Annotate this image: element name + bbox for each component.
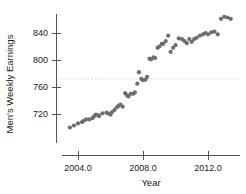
data-point — [133, 90, 137, 94]
x-tick-label-2008.0: 2008.0 — [129, 163, 157, 173]
data-point — [121, 104, 125, 108]
data-point — [212, 30, 216, 34]
data-point — [68, 125, 72, 129]
y-axis-title: Men's Weekly Earnings — [4, 34, 15, 133]
data-point — [137, 70, 141, 74]
y-tick-label-760: 760 — [33, 82, 48, 92]
y-tick-label-800: 800 — [33, 55, 48, 65]
x-tick-label-2012.0: 2012.0 — [194, 163, 222, 173]
data-point — [229, 17, 233, 21]
data-point — [72, 123, 76, 127]
data-point — [173, 43, 177, 47]
data-point — [97, 114, 101, 118]
data-point — [135, 82, 139, 86]
data-point — [164, 39, 168, 43]
scatter-chart: 720760800840 2004.02008.02012.0 Men's We… — [0, 0, 246, 194]
chart-canvas: 720760800840 2004.02008.02012.0 Men's We… — [0, 0, 246, 194]
data-point — [100, 111, 104, 115]
x-tick-marks: 2004.02008.02012.0 — [64, 151, 222, 173]
data-point — [76, 121, 80, 125]
data-point — [153, 56, 157, 60]
data-point — [169, 50, 173, 54]
data-point — [185, 41, 189, 45]
data-point — [145, 75, 149, 79]
y-tick-label-840: 840 — [33, 28, 48, 38]
data-points — [68, 15, 233, 130]
y-tick-label-720: 720 — [33, 109, 48, 119]
x-tick-label-2004.0: 2004.0 — [64, 163, 92, 173]
data-point — [216, 32, 220, 36]
x-axis-title: Year — [141, 177, 160, 188]
data-point — [166, 34, 170, 38]
